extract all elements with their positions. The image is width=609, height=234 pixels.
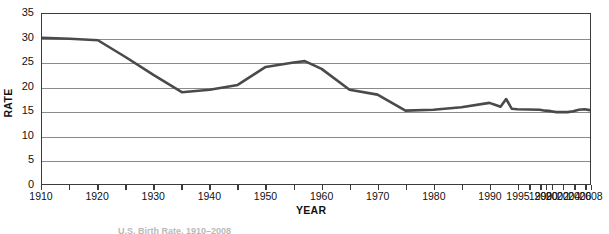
x-axis-title: YEAR	[296, 204, 326, 216]
y-tick-label: 25	[22, 56, 34, 67]
x-tick-label: 1970	[366, 190, 389, 202]
x-tick-label: 1930	[142, 190, 165, 202]
y-tick-label: 0	[28, 179, 34, 190]
x-tick-label: 1940	[198, 190, 221, 202]
y-tick-label: 35	[22, 7, 34, 18]
figure-caption: U.S. Birth Rate, 1910–2008	[118, 226, 518, 234]
y-tick-label: 5	[28, 154, 34, 165]
x-axis-tick-labels: 1910192019301940195019601970198019901995…	[0, 190, 609, 204]
x-tick-label: 1990	[478, 190, 501, 202]
birth-rate-line-chart: RATE 05101520253035 19101920193019401950…	[0, 0, 609, 234]
x-tick-label: 1950	[254, 190, 277, 202]
plot-area	[41, 13, 591, 185]
series-line-rate	[42, 14, 590, 184]
x-tick-label: 2008	[579, 190, 602, 202]
x-tick-label: 1980	[422, 190, 445, 202]
x-tick-label: 1920	[85, 190, 108, 202]
y-tick-label: 30	[22, 32, 34, 43]
y-tick-label: 15	[22, 105, 34, 116]
x-tick-label: 1910	[29, 190, 52, 202]
x-tick-label: 1995	[506, 190, 529, 202]
y-tick-label: 20	[22, 81, 34, 92]
x-tick-label: 1960	[310, 190, 333, 202]
y-tick-label: 10	[22, 130, 34, 141]
